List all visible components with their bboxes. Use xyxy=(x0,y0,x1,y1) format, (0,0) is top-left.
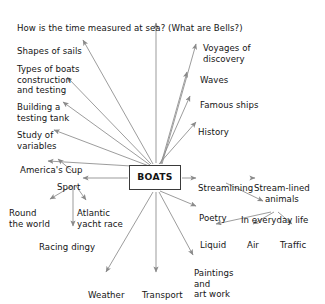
node-atlantic-yacht-race[interactable]: Atlantic yacht race xyxy=(77,198,123,229)
node-round-the-world-label: Round the world xyxy=(9,208,50,228)
node-streamlining-label: Streamlining xyxy=(198,183,253,193)
node-racing-dingy[interactable]: Racing dingy xyxy=(39,232,95,253)
node-types-of-boats-label: Types of boats construction and testing xyxy=(17,64,80,95)
edge-boats-to-famous-ships xyxy=(160,96,190,164)
edge-boats-to-paintings-art-work xyxy=(159,192,193,255)
node-voyages-of-discovery-label: Voyages of discovery xyxy=(203,43,251,63)
node-streamlining[interactable]: Streamlining xyxy=(198,173,253,194)
node-waves-label: Waves xyxy=(200,75,228,85)
node-famous-ships-label: Famous ships xyxy=(200,100,259,110)
node-in-everyday-life-label: In everyday life xyxy=(241,215,308,225)
node-study-of-variables-label: Study of variables xyxy=(17,130,57,150)
node-poetry-label: Poetry xyxy=(199,213,227,223)
node-boats-label: BOATS xyxy=(137,172,172,182)
node-types-of-boats[interactable]: Types of boats construction and testing xyxy=(17,54,80,96)
edge-boats-to-waves xyxy=(161,72,187,164)
node-air-label: Air xyxy=(247,240,259,250)
node-transport-label: Transport xyxy=(142,290,183,300)
node-history[interactable]: History xyxy=(198,117,229,138)
node-paintings-and-art-work[interactable]: Paintings and art work xyxy=(194,258,233,300)
node-stream-lined-animals[interactable]: Stream-lined animals xyxy=(254,173,310,204)
node-stream-lined-animals-label: Stream-lined animals xyxy=(254,183,310,203)
node-weather[interactable]: Weather xyxy=(88,280,125,301)
node-sport-label: Sport xyxy=(57,182,80,192)
node-boats[interactable]: BOATS xyxy=(129,165,181,190)
node-atlantic-yacht-race-label: Atlantic yacht race xyxy=(77,208,123,228)
node-round-the-world[interactable]: Round the world xyxy=(9,198,50,229)
node-poetry[interactable]: Poetry xyxy=(199,203,227,224)
node-traffic[interactable]: Traffic xyxy=(280,230,306,251)
mind-map-diagram: BOATS How is the time measured at sea? (… xyxy=(0,0,325,304)
edge-boats-to-types-of-boats xyxy=(67,77,151,164)
node-history-label: History xyxy=(198,127,229,137)
node-time-at-sea-label: How is the time measured at sea? (What a… xyxy=(17,23,243,33)
node-building-testing-tank[interactable]: Building a testing tank xyxy=(17,92,69,123)
node-time-at-sea[interactable]: How is the time measured at sea? (What a… xyxy=(17,13,243,34)
node-liquid-label: Liquid xyxy=(200,240,226,250)
edge-boats-to-history xyxy=(159,122,196,164)
edge-boats-to-poetry xyxy=(160,191,196,206)
node-weather-label: Weather xyxy=(88,290,125,300)
node-famous-ships[interactable]: Famous ships xyxy=(200,90,259,111)
node-voyages-of-discovery[interactable]: Voyages of discovery xyxy=(203,33,251,64)
node-liquid[interactable]: Liquid xyxy=(200,230,226,251)
node-air[interactable]: Air xyxy=(247,230,259,251)
node-in-everyday-life[interactable]: In everyday life xyxy=(241,205,308,226)
node-paintings-and-art-work-label: Paintings and art work xyxy=(194,268,233,299)
node-racing-dingy-label: Racing dingy xyxy=(39,242,95,252)
node-waves[interactable]: Waves xyxy=(200,65,228,86)
edge-boats-to-voyages-of-discovery xyxy=(162,44,196,164)
edge-boats-to-shapes-of-sails xyxy=(83,40,153,164)
node-sport[interactable]: Sport xyxy=(57,172,80,193)
node-transport[interactable]: Transport xyxy=(142,280,183,301)
node-traffic-label: Traffic xyxy=(280,240,306,250)
node-study-of-variables[interactable]: Study of variables xyxy=(17,120,57,151)
